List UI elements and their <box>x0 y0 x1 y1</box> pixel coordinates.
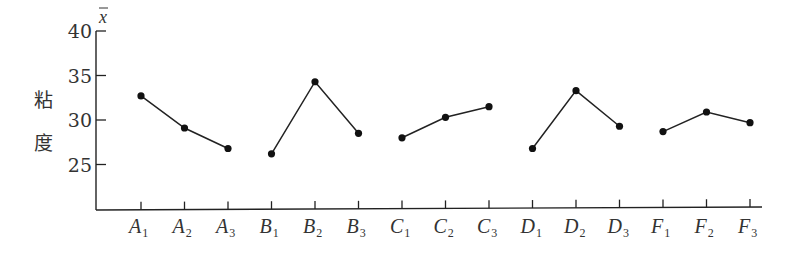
y-tick-label: 35 <box>68 65 92 87</box>
x-tick-label: A2 <box>171 215 192 240</box>
data-point <box>268 150 275 157</box>
series-line <box>533 91 620 149</box>
data-point <box>485 103 492 110</box>
x-tick-label: C1 <box>390 215 410 240</box>
y-axis-label: 粘度 <box>34 89 53 154</box>
data-point <box>224 145 231 152</box>
x-tick-label: C3 <box>477 215 497 240</box>
y-axis-label-char: 度 <box>34 132 53 154</box>
data-point <box>703 108 710 115</box>
y-tick-label: 30 <box>68 109 92 131</box>
series-C <box>398 103 492 141</box>
series-B <box>268 78 362 157</box>
main-effects-line-chart: x 25303540 粘度 A1A2A3B1B2B3C1C2C3D1D2D3F1… <box>0 0 790 261</box>
x-axis-ticks: A1A2A3B1B2B3C1C2C3D1D2D3F1F2F3 <box>127 199 757 240</box>
x-tick-label: B2 <box>303 215 322 240</box>
data-point <box>442 114 449 121</box>
x-tick-label: F2 <box>694 215 714 240</box>
data-point <box>181 124 188 131</box>
y-tick-label: 25 <box>68 154 92 176</box>
x-axis-line <box>96 207 762 210</box>
x-tick-label: C2 <box>434 215 454 240</box>
data-point <box>137 92 144 99</box>
y-axis-symbol: x <box>98 7 107 27</box>
x-tick-label: A3 <box>214 215 235 240</box>
data-point <box>529 145 536 152</box>
series-line <box>141 96 228 149</box>
y-tick-label: 40 <box>68 20 92 42</box>
y-axis-ticks: 25303540 <box>68 20 106 176</box>
x-tick-label: F3 <box>737 215 757 240</box>
series-line <box>272 82 359 154</box>
x-tick-label: D2 <box>563 215 585 240</box>
data-point <box>311 78 318 85</box>
x-tick-label: B1 <box>260 215 279 240</box>
series-A <box>137 92 231 152</box>
series-F <box>659 108 753 135</box>
data-point <box>355 130 362 137</box>
series-group <box>137 78 753 157</box>
data-point <box>572 87 579 94</box>
series-line <box>402 107 489 138</box>
y-axis-label-char: 粘 <box>34 89 53 111</box>
x-tick-label: F1 <box>650 215 670 240</box>
x-tick-label: D3 <box>607 215 629 240</box>
x-tick-label: D1 <box>520 215 542 240</box>
data-point <box>398 134 405 141</box>
data-point <box>616 123 623 130</box>
data-point <box>659 128 666 135</box>
x-tick-label: A1 <box>127 215 148 240</box>
data-point <box>746 119 753 126</box>
series-D <box>529 87 623 152</box>
x-tick-label: B3 <box>347 215 366 240</box>
axes: x <box>96 7 762 210</box>
